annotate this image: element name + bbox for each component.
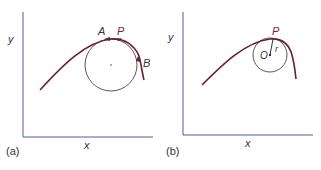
curve (202, 39, 296, 85)
diagram-b (160, 0, 321, 170)
y-label: y (168, 31, 174, 43)
caption-b: (b) (166, 145, 179, 157)
point-P-label: P (117, 25, 124, 37)
y-label: y (8, 33, 14, 45)
point-B-label: B (143, 57, 150, 69)
radius-r (270, 39, 273, 55)
point-A-label: A (98, 25, 105, 37)
x-label: x (84, 139, 90, 151)
panel-b: y x P O r (b) (160, 0, 320, 170)
circle-center (110, 64, 112, 66)
diagram-a (0, 0, 160, 170)
point-P-label: P (272, 25, 279, 37)
caption-a: (a) (6, 145, 19, 157)
center-O-label: O (260, 50, 268, 61)
panel-a: y x A P B (a) (0, 0, 160, 170)
radius-r-label: r (275, 44, 278, 54)
x-label: x (245, 137, 251, 149)
